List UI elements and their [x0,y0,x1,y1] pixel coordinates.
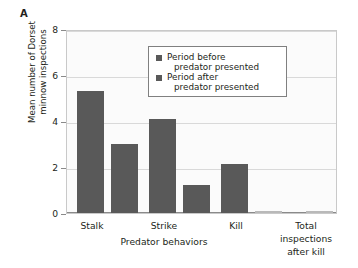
x-tick-label-stalk: Stalk [56,220,128,232]
bar-stalk-before [77,91,104,213]
x-tick-label-total-line2: inspections [268,233,344,245]
y-tick-mark-0 [61,214,66,215]
x-tick-label-total-line3: after kill [268,246,344,258]
bar-stalk-after [111,144,138,213]
legend-entry-after: Period after [156,72,218,83]
x-tick-label-kill: Kill [200,220,272,232]
gridline-4 [67,123,336,124]
figure-panel-a: A Mean number of Dorset minnow inspectio… [0,0,358,268]
bar-total-after [306,211,333,213]
bar-kill-before [221,164,248,213]
bar-kill-after [255,211,282,213]
y-tick-label-4: 4 [36,117,58,126]
y-tick-label-2: 2 [36,163,58,172]
legend-entry-before: Period before [156,52,226,63]
y-tick-label-6: 6 [36,71,58,80]
legend-swatch-icon-after [156,75,162,81]
y-tick-label-8: 8 [36,25,58,34]
legend-label-before-line2: predator presented [174,62,259,73]
legend-swatch-icon-before [156,55,162,61]
legend-label-before-line1: Period before [167,52,226,63]
gridline-8 [67,31,336,32]
x-tick-label-total-line1: Total [268,220,344,232]
legend-label-after-line1: Period after [167,72,218,83]
gridline-2 [67,169,336,170]
y-tick-label-0: 0 [36,209,58,218]
legend: Period before predator presented Period … [148,46,287,97]
x-axis-title: Predator behaviors [84,236,244,247]
legend-label-after-line2: predator presented [174,82,259,93]
x-tick-label-strike: Strike [128,220,200,232]
bar-strike-after [183,185,210,213]
bar-strike-before [149,119,176,213]
